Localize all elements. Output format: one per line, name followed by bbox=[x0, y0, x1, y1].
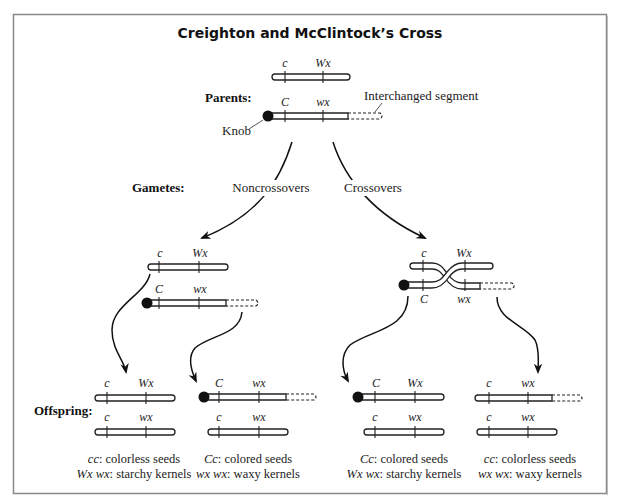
phenotype: : starchy kernels bbox=[380, 467, 462, 481]
phenotype: : colorless seeds bbox=[99, 452, 180, 466]
genotype: cc bbox=[484, 452, 496, 466]
svg-text:Wx wx: starchy kernels: Wx wx: starchy kernels bbox=[347, 467, 462, 481]
gene-label: Wx bbox=[315, 56, 331, 70]
gene-label: c bbox=[421, 246, 427, 260]
gene-label: wx bbox=[139, 410, 153, 424]
knob-icon bbox=[263, 111, 274, 122]
gene-label: C bbox=[281, 95, 290, 109]
genotype: Cc bbox=[204, 452, 218, 466]
parents-label: Parents: bbox=[205, 90, 252, 105]
genotype: cc bbox=[88, 452, 100, 466]
offspring-3-caption: Cc: colored seeds Wx wx: starchy kernels bbox=[347, 452, 462, 481]
svg-text:Cc: colored seeds: Cc: colored seeds bbox=[360, 452, 448, 466]
knob-icon bbox=[399, 280, 410, 291]
gene-label: C bbox=[215, 376, 224, 390]
gene-label: c bbox=[486, 410, 492, 424]
gene-label: c bbox=[104, 410, 110, 424]
gene-label: wx bbox=[193, 282, 207, 296]
gene-label: c bbox=[282, 56, 288, 70]
offspring-1-caption: cc: colorless seeds Wx wx: starchy kerne… bbox=[77, 452, 192, 481]
gene-label: C bbox=[420, 292, 429, 306]
gene-label: C bbox=[372, 376, 381, 390]
genotype: Wx wx bbox=[347, 467, 380, 481]
phenotype: : colored seeds bbox=[374, 452, 448, 466]
gene-label: wx bbox=[252, 376, 266, 390]
genotype: wx wx bbox=[478, 467, 509, 481]
genotype: wx wx bbox=[196, 467, 227, 481]
figure-frame bbox=[14, 15, 607, 494]
svg-text:cc: colorless seeds: cc: colorless seeds bbox=[88, 452, 180, 466]
svg-text:Wx wx: starchy kernels: Wx wx: starchy kernels bbox=[77, 467, 192, 481]
phenotype: : starchy kernels bbox=[110, 467, 192, 481]
phenotype: : waxy kernels bbox=[509, 467, 582, 481]
gene-label: wx bbox=[521, 410, 535, 424]
gene-label: wx bbox=[316, 95, 330, 109]
genotype: Wx wx bbox=[77, 467, 110, 481]
offspring-4-caption: cc: colorless seeds wx wx: waxy kernels bbox=[478, 452, 582, 481]
knob-icon bbox=[353, 392, 364, 403]
svg-text:wx wx: waxy kernels: wx wx: waxy kernels bbox=[478, 467, 582, 481]
noncrossovers-label: Noncrossovers bbox=[232, 180, 309, 195]
phenotype: : colorless seeds bbox=[495, 452, 576, 466]
phenotype: : colored seeds bbox=[218, 452, 292, 466]
knob-icon bbox=[199, 392, 210, 403]
gene-label: Wx bbox=[192, 246, 208, 260]
gene-label: c bbox=[104, 376, 110, 390]
svg-text:wx wx: waxy kernels: wx wx: waxy kernels bbox=[196, 467, 300, 481]
gene-label: Wx bbox=[138, 376, 154, 390]
crossovers-label: Crossovers bbox=[344, 180, 402, 195]
phenotype: : waxy kernels bbox=[227, 467, 300, 481]
gene-label: Wx bbox=[456, 246, 472, 260]
genotype: Cc bbox=[360, 452, 374, 466]
gene-label: c bbox=[372, 410, 378, 424]
gene-label: Wx bbox=[407, 376, 423, 390]
cross-diagram: Creighton and McClintock’s Cross Parents… bbox=[0, 0, 621, 502]
gene-label: wx bbox=[408, 410, 422, 424]
knob-label: Knob bbox=[222, 123, 251, 138]
offspring-2-caption: Cc: colored seeds wx wx: waxy kernels bbox=[196, 452, 300, 481]
gametes-label: Gametes: bbox=[132, 180, 185, 195]
gene-label: c bbox=[216, 410, 222, 424]
offspring-label: Offspring: bbox=[34, 403, 93, 418]
figure-title: Creighton and McClintock’s Cross bbox=[178, 25, 443, 41]
svg-text:cc: colorless seeds: cc: colorless seeds bbox=[484, 452, 576, 466]
svg-text:Cc: colored seeds: Cc: colored seeds bbox=[204, 452, 292, 466]
knob-icon bbox=[142, 298, 153, 309]
gene-label: wx bbox=[457, 292, 471, 306]
gene-label: wx bbox=[521, 376, 535, 390]
gene-label: wx bbox=[252, 410, 266, 424]
gene-label: c bbox=[486, 376, 492, 390]
gene-label: C bbox=[155, 282, 164, 296]
interchanged-segment-label: Interchanged segment bbox=[364, 88, 479, 103]
gene-label: c bbox=[157, 246, 163, 260]
